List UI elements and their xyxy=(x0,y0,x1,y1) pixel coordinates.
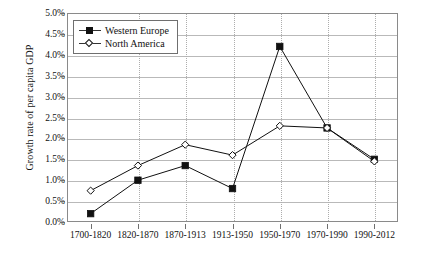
data-point-marker xyxy=(182,141,189,148)
x-tick-mark xyxy=(280,224,281,229)
data-point-marker xyxy=(276,122,283,129)
y-tick-mark xyxy=(60,118,65,119)
data-point-marker xyxy=(134,162,141,169)
y-tick-mark xyxy=(60,138,65,139)
y-tick-label: 3.5% xyxy=(23,71,65,81)
y-tick-mark xyxy=(60,180,65,181)
chart-legend: Western Europe North America xyxy=(73,20,178,54)
legend-item-western-europe: Western Europe xyxy=(79,24,169,37)
legend-marker-filled-square-icon xyxy=(79,25,101,36)
data-point-marker xyxy=(277,43,283,49)
y-tick-label: 1.5% xyxy=(23,154,65,164)
legend-label-western-europe: Western Europe xyxy=(101,25,169,36)
x-axis-labels: 1700-18201820-18701870-19131913-19501950… xyxy=(67,224,398,248)
x-tick-label: 1990-2012 xyxy=(354,230,395,240)
y-tick-label: 0.0% xyxy=(23,217,65,227)
y-tick-label: 3.0% xyxy=(23,92,65,102)
data-point-marker xyxy=(87,187,94,194)
x-tick-label: 1700-1820 xyxy=(70,230,111,240)
x-tick-label: 1913-1950 xyxy=(212,230,253,240)
data-point-marker xyxy=(87,210,93,216)
y-tick-label: 4.5% xyxy=(23,29,65,39)
x-tick-mark xyxy=(91,224,92,229)
data-point-marker xyxy=(229,152,236,159)
y-tick-mark xyxy=(60,97,65,98)
y-tick-mark xyxy=(60,201,65,202)
y-axis-ticks: 0.0%0.5%1.0%1.5%2.0%2.5%3.0%3.5%4.0%4.5%… xyxy=(15,13,65,222)
y-tick-mark xyxy=(60,159,65,160)
growth-rate-line-chart: Growth rate of per capita GDP 0.0%0.5%1.… xyxy=(0,0,428,256)
x-tick-label: 1870-1913 xyxy=(165,230,206,240)
x-tick-mark xyxy=(185,224,186,229)
x-tick-mark xyxy=(138,224,139,229)
x-tick-label: 1950-1970 xyxy=(259,230,300,240)
legend-item-north-america: North America xyxy=(79,37,169,50)
legend-label-north-america: North America xyxy=(101,38,165,49)
y-tick-label: 4.0% xyxy=(23,50,65,60)
y-tick-label: 5.0% xyxy=(23,8,65,18)
data-point-marker xyxy=(229,185,235,191)
data-point-marker xyxy=(182,162,188,168)
x-tick-label: 1820-1870 xyxy=(117,230,158,240)
y-tick-label: 2.0% xyxy=(23,133,65,143)
y-tick-label: 2.5% xyxy=(23,113,65,123)
x-tick-label: 1970-1990 xyxy=(306,230,347,240)
x-tick-mark xyxy=(327,224,328,229)
y-tick-label: 0.5% xyxy=(23,196,65,206)
y-tick-mark xyxy=(60,34,65,35)
y-tick-mark xyxy=(60,13,65,14)
y-tick-mark xyxy=(60,222,65,223)
y-tick-mark xyxy=(60,55,65,56)
y-tick-label: 1.0% xyxy=(23,175,65,185)
y-tick-mark xyxy=(60,76,65,77)
legend-marker-open-diamond-icon xyxy=(79,38,101,49)
data-point-marker xyxy=(135,177,141,183)
x-tick-mark xyxy=(233,224,234,229)
x-tick-mark xyxy=(374,224,375,229)
